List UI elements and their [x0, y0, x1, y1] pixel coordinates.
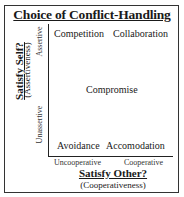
- quadrant-compromise: Compromise: [86, 84, 138, 95]
- y-tick-assertive: Assertive: [35, 22, 44, 62]
- x-tick-uncooperative: Uncooperative: [54, 158, 101, 167]
- y-tick-unassertive: Unassertive: [35, 99, 44, 151]
- x-axis-label: Satisfy Other?: [48, 167, 178, 179]
- y-axis-sublabel: (Assertiveness): [22, 30, 32, 110]
- quadrant-avoidance: Avoidance: [57, 140, 100, 151]
- quadrant-collaboration: Collaboration: [113, 28, 168, 39]
- x-axis-sublabel: (Cooperativeness): [48, 180, 178, 190]
- quadrant-accomodation: Accomodation: [106, 140, 165, 151]
- y-axis-line: [48, 24, 49, 157]
- x-tick-cooperative: Cooperative: [124, 158, 163, 167]
- x-axis-line: [48, 156, 173, 157]
- diagram-title: Choice of Conflict-Handling: [0, 7, 184, 23]
- quadrant-competition: Competition: [54, 28, 104, 39]
